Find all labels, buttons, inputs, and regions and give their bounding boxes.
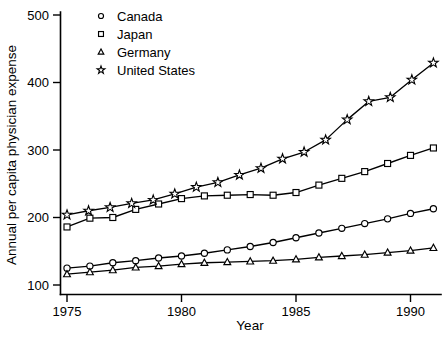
x-axis-tick-labels: 1975198019851990 bbox=[53, 304, 425, 319]
marker-square bbox=[385, 161, 391, 167]
y-tick-label: 500 bbox=[27, 8, 49, 23]
marker-square bbox=[316, 182, 322, 188]
legend-item-japan[interactable]: Japan bbox=[99, 27, 153, 42]
marker-circle bbox=[407, 210, 413, 216]
y-axis-title: Annual per capita physician expense bbox=[4, 45, 19, 265]
y-tick-label: 200 bbox=[27, 210, 49, 225]
y-tick-label: 400 bbox=[27, 75, 49, 90]
legend: CanadaJapanGermanyUnited States bbox=[97, 9, 195, 78]
y-tick-label: 100 bbox=[27, 278, 49, 293]
x-tick-label: 1975 bbox=[53, 304, 82, 319]
legend-label: Germany bbox=[117, 45, 171, 60]
series-group bbox=[62, 58, 438, 277]
marker-square bbox=[201, 193, 207, 199]
marker-circle bbox=[362, 220, 368, 226]
marker-star bbox=[84, 206, 94, 215]
marker-star bbox=[213, 177, 223, 186]
marker-circle bbox=[201, 250, 207, 256]
x-tick-label: 1985 bbox=[282, 304, 311, 319]
legend-label: Japan bbox=[117, 27, 152, 42]
marker-circle bbox=[110, 260, 116, 266]
marker-star bbox=[256, 163, 266, 172]
marker-square bbox=[110, 215, 116, 221]
marker-square bbox=[270, 192, 276, 198]
legend-marker-square bbox=[99, 32, 104, 37]
marker-circle bbox=[270, 239, 276, 245]
x-axis-title: Year bbox=[236, 318, 264, 333]
marker-star bbox=[235, 170, 245, 179]
line-chart-canvas: 100200300400500 1975198019851990 CanadaJ… bbox=[0, 0, 445, 338]
marker-square bbox=[339, 175, 345, 181]
marker-circle bbox=[339, 225, 345, 231]
legend-marker-triangle bbox=[98, 49, 104, 54]
marker-square bbox=[408, 152, 414, 158]
marker-square bbox=[224, 192, 230, 198]
marker-square bbox=[247, 192, 253, 198]
legend-item-united-states[interactable]: United States bbox=[97, 63, 195, 78]
marker-square bbox=[64, 224, 70, 230]
marker-circle bbox=[247, 243, 253, 249]
y-axis-ticks bbox=[53, 15, 61, 285]
marker-star bbox=[278, 154, 288, 163]
marker-square bbox=[430, 145, 436, 151]
marker-star bbox=[386, 92, 396, 101]
marker-square bbox=[87, 215, 93, 221]
marker-circle bbox=[224, 247, 230, 253]
marker-circle bbox=[156, 255, 162, 261]
x-tick-label: 1980 bbox=[167, 304, 196, 319]
marker-star bbox=[105, 202, 115, 211]
marker-triangle bbox=[430, 244, 437, 250]
marker-circle bbox=[178, 253, 184, 259]
y-axis-tick-labels: 100200300400500 bbox=[27, 8, 49, 293]
legend-item-canada[interactable]: Canada bbox=[98, 9, 163, 24]
marker-circle bbox=[430, 206, 436, 212]
marker-star bbox=[192, 182, 202, 191]
series-japan bbox=[64, 145, 436, 230]
legend-marker-circle bbox=[98, 13, 103, 18]
chart-figure: 100200300400500 1975198019851990 CanadaJ… bbox=[0, 0, 445, 338]
marker-square bbox=[293, 190, 299, 196]
marker-circle bbox=[316, 230, 322, 236]
marker-circle bbox=[385, 216, 391, 222]
legend-item-germany[interactable]: Germany bbox=[98, 45, 171, 60]
marker-square bbox=[179, 196, 185, 202]
x-tick-label: 1990 bbox=[396, 304, 425, 319]
legend-label: United States bbox=[117, 63, 196, 78]
legend-marker-star bbox=[97, 66, 105, 73]
marker-star bbox=[299, 147, 309, 156]
series-line-japan bbox=[67, 148, 433, 227]
marker-circle bbox=[293, 235, 299, 241]
y-tick-label: 300 bbox=[27, 143, 49, 158]
legend-label: Canada bbox=[117, 9, 163, 24]
marker-square bbox=[362, 169, 368, 175]
marker-star bbox=[62, 210, 72, 219]
x-axis-ticks bbox=[67, 295, 411, 303]
